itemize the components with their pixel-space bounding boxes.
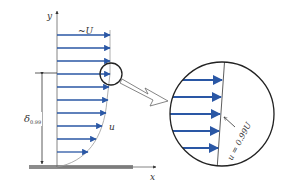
- edge-pointer: [224, 117, 235, 127]
- x-axis-label: x: [150, 172, 155, 182]
- velocity-arrows: [57, 35, 110, 152]
- edge-condition-label: u = 0.99U: [226, 121, 254, 162]
- boundary-layer-diagram: x y ~U u δ0.99 u =: [0, 0, 285, 192]
- callout-arrow: [120, 79, 168, 106]
- y-axis-label: y: [46, 11, 53, 21]
- velocity-label: u: [109, 122, 115, 132]
- velocity-profile-curve: [57, 30, 110, 167]
